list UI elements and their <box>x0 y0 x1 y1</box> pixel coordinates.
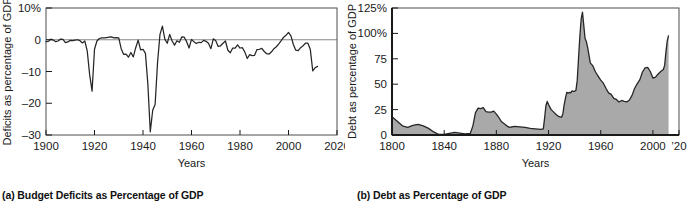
y-tick-label: 125% <box>358 2 387 14</box>
x-axis-title: Years <box>522 157 550 169</box>
y-tick-label: 25 <box>374 104 387 116</box>
chart-panel-a: 190019201940196019802000202010%0–10–20–3… <box>0 0 345 203</box>
y-tick-label: –30 <box>22 129 41 141</box>
y-tick-label: 100% <box>358 27 387 39</box>
chart-panel-b: 180018401880192019602000’20125%100%75502… <box>345 0 689 203</box>
x-tick-label: 1800 <box>379 140 405 152</box>
x-tick-label: 1840 <box>431 140 457 152</box>
panel-a-caption: (a) Budget Deficits as Percentage of GDP <box>2 189 203 201</box>
y-tick-label: –20 <box>22 97 41 109</box>
x-tick-label: 1980 <box>227 140 253 152</box>
budget-deficits-chart: 190019201940196019802000202010%0–10–20–3… <box>0 0 345 175</box>
x-tick-label: 1940 <box>130 140 156 152</box>
y-tick-label: 50 <box>374 78 387 90</box>
x-tick-label: 2000 <box>640 140 666 152</box>
y-tick-label: 0 <box>381 129 387 141</box>
y-axis-title: Deficits as percentage of GDP <box>1 0 13 145</box>
x-tick-label: 1960 <box>588 140 614 152</box>
x-tick-label: 1900 <box>33 140 59 152</box>
y-tick-label: 10% <box>18 2 41 14</box>
y-tick-label: 75 <box>374 53 387 65</box>
x-tick-label: 1920 <box>536 140 562 152</box>
x-axis-title: Years <box>178 157 206 169</box>
y-tick-label: 0 <box>35 34 41 46</box>
x-tick-label: 1960 <box>179 140 205 152</box>
x-tick-label: 2020 <box>324 140 345 152</box>
y-tick-label: –10 <box>22 66 41 78</box>
debt-percentage-chart: 180018401880192019602000’20125%100%75502… <box>345 0 689 175</box>
x-tick-label: 1880 <box>484 140 510 152</box>
x-tick-label: 2000 <box>276 140 302 152</box>
figure-sheet: 190019201940196019802000202010%0–10–20–3… <box>0 0 689 203</box>
x-tick-label: 1920 <box>82 140 108 152</box>
panel-b-caption: (b) Debt as Percentage of GDP <box>357 189 506 201</box>
x-tick-label: ’20 <box>671 140 686 152</box>
y-axis-title: Debt as percentage of GDP <box>346 4 358 139</box>
